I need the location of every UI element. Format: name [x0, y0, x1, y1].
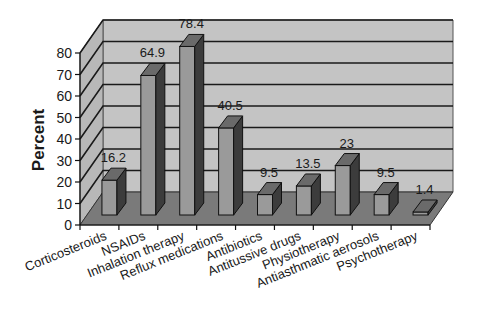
bar — [180, 34, 204, 215]
bar-side — [234, 116, 243, 215]
data-label: 64.9 — [140, 45, 165, 60]
y-tick-label: 30 — [56, 153, 72, 169]
data-label: 40.5 — [217, 98, 242, 113]
bar-front — [374, 195, 389, 215]
bar-front — [335, 166, 350, 215]
y-tick-label: 60 — [56, 88, 72, 104]
data-label: 16.2 — [101, 150, 126, 165]
data-label: 78.4 — [179, 16, 204, 31]
y-axis-label: Percent — [29, 108, 48, 171]
y-tick-label: 70 — [56, 67, 72, 83]
bar — [141, 63, 165, 215]
data-label: 13.5 — [295, 156, 320, 171]
bar — [102, 168, 126, 215]
data-label: 9.5 — [377, 165, 395, 180]
bar-front — [219, 128, 234, 215]
data-label: 9.5 — [260, 165, 278, 180]
y-tick-label: 50 — [56, 110, 72, 126]
y-axis: 01020304050607080 — [56, 45, 80, 233]
bar — [335, 154, 359, 215]
y-tick-label: 80 — [56, 45, 72, 61]
bar-chart: 01020304050607080 CorticosteroidsNSAIDsI… — [0, 0, 477, 326]
bar-front — [102, 180, 117, 215]
bar-front — [258, 195, 273, 215]
bar-front — [180, 46, 195, 215]
bar-side — [156, 63, 165, 215]
y-tick-label: 0 — [64, 217, 72, 233]
data-label: 23 — [340, 136, 354, 151]
bar — [219, 116, 243, 215]
y-tick-label: 40 — [56, 131, 72, 147]
y-tick-label: 10 — [56, 196, 72, 212]
bar-front — [141, 75, 156, 215]
x-axis: CorticosteroidsNSAIDsInhalation therapyR… — [23, 225, 430, 291]
data-label: 1.4 — [416, 182, 434, 197]
bar-front — [296, 186, 311, 215]
y-tick-label: 20 — [56, 174, 72, 190]
bar-side — [195, 34, 204, 215]
